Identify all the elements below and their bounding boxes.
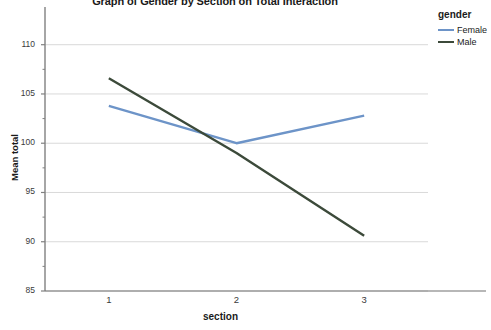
legend-title: gender bbox=[438, 9, 491, 20]
x-tick-label: 1 bbox=[89, 294, 129, 305]
chart-title: Graph of Gender by Section on Total Inte… bbox=[0, 0, 430, 7]
x-axis-title: section bbox=[48, 311, 393, 322]
series-line-male bbox=[109, 78, 364, 236]
y-tick-label: 85 bbox=[9, 285, 35, 295]
x-tick-label: 3 bbox=[344, 294, 384, 305]
legend-entries: FemaleMale bbox=[438, 25, 491, 47]
legend-item-female[interactable]: Female bbox=[438, 25, 491, 35]
chart-container: Graph of Gender by Section on Total Inte… bbox=[0, 0, 491, 330]
series-line-female bbox=[109, 106, 364, 143]
gridlines-group bbox=[45, 45, 428, 291]
x-tick-label: 2 bbox=[217, 294, 257, 305]
y-tick-label: 105 bbox=[9, 88, 35, 98]
legend-swatch-male bbox=[438, 41, 454, 44]
legend-label: Female bbox=[457, 25, 487, 35]
y-tick-label: 110 bbox=[9, 39, 35, 49]
legend-item-male[interactable]: Male bbox=[438, 37, 491, 47]
legend: gender FemaleMale bbox=[438, 9, 491, 49]
plot-area bbox=[0, 0, 491, 330]
legend-label: Male bbox=[457, 37, 477, 47]
y-tick-label: 90 bbox=[9, 236, 35, 246]
axes-group bbox=[45, 7, 486, 291]
legend-swatch-female bbox=[438, 29, 454, 32]
y-tick-label: 100 bbox=[9, 137, 35, 147]
y-tick-label: 95 bbox=[9, 186, 35, 196]
data-series-group bbox=[109, 78, 364, 236]
